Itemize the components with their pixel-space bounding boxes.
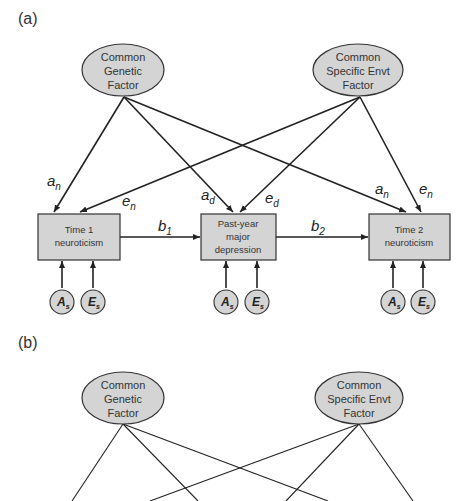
svg-text:Past-year: Past-year [218,218,259,229]
panel-b-genetic-factor: Common Genetic Factor [82,372,164,424]
svg-text:depression: depression [215,244,261,255]
residual-as-time1: As [50,290,74,314]
svg-text:Factor: Factor [342,79,374,91]
panel-b-paths [72,424,413,501]
box-time2-neuroticism: Time 2 neuroticism [369,214,450,260]
box-time1-neuroticism: Time 1 neuroticism [38,214,120,260]
path-env-time2 [360,97,421,212]
svg-text:neuroticism: neuroticism [385,237,434,248]
svg-text:major: major [226,231,250,242]
residual-es-time2: Es [411,290,435,314]
svg-text:Specific Envt: Specific Envt [327,393,391,405]
residual-es-depression: Es [245,290,269,314]
path-genetic-depression [124,97,233,212]
label-ad: ad [201,186,215,206]
label-an-left: an [47,172,61,192]
residuals: As Es As Es As Es [50,290,435,314]
svg-text:Common: Common [101,379,146,391]
path-diagram: (a) Common Genetic Factor Common Specifi… [0,0,471,501]
label-ed: ed [265,189,279,209]
path-genetic-time1 [54,97,124,212]
label-en-left: en [122,192,136,212]
label-b1: b1 [158,217,172,237]
residual-es-time1: Es [81,290,105,314]
svg-text:Factor: Factor [343,407,375,419]
svg-text:Genetic: Genetic [104,393,142,405]
label-b2: b2 [311,217,325,237]
svg-text:Time 2: Time 2 [395,224,424,235]
path-env-depression [240,97,360,212]
svg-text:Common: Common [101,51,146,63]
panel-b-environment-factor: Common Specific Envt Factor [315,372,403,424]
label-en-right: en [419,180,433,200]
svg-text:Factor: Factor [107,407,139,419]
label-an-right: an [375,180,389,200]
svg-text:Time 1: Time 1 [65,224,94,235]
svg-text:Factor: Factor [107,79,139,91]
svg-text:Common: Common [337,379,382,391]
panel-a-environment-factor: Common Specific Envt Factor [313,44,403,96]
svg-text:Common: Common [336,51,381,63]
svg-text:Specific Envt: Specific Envt [326,65,390,77]
svg-text:neuroticism: neuroticism [55,237,104,248]
panel-a-label: (a) [18,10,38,27]
panel-a-genetic-factor: Common Genetic Factor [82,44,164,96]
box-past-year-depression: Past-year major depression [201,214,276,260]
panel-b-label: (b) [18,334,38,351]
residual-as-depression: As [214,290,238,314]
svg-text:Genetic: Genetic [104,65,142,77]
residual-as-time2: As [381,290,405,314]
